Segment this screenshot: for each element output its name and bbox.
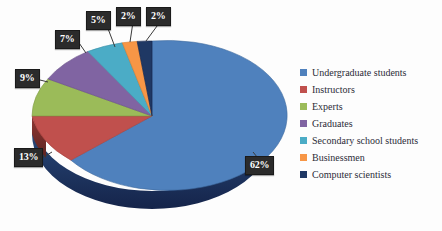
legend-label: Undergraduate students	[312, 68, 407, 78]
data-label-businessmen: 2%	[116, 7, 141, 26]
legend-swatch-icon	[300, 103, 307, 110]
legend-swatch-icon	[300, 86, 307, 93]
data-label-experts: 9%	[15, 69, 40, 88]
legend-label: Businessmen	[312, 153, 365, 163]
legend-label: Computer scientists	[312, 170, 391, 180]
legend-swatch-icon	[300, 154, 307, 161]
legend-swatch-icon	[300, 120, 307, 127]
legend-swatch-icon	[300, 171, 307, 178]
legend-item-secondary-school-students[interactable]: Secondary school students	[300, 132, 442, 149]
legend-label: Instructors	[312, 85, 355, 95]
chart-plot-area: 62% 13% 9% 7% 5% 2% 2%	[0, 0, 300, 231]
legend-label: Graduates	[312, 119, 353, 129]
legend-item-instructors[interactable]: Instructors	[300, 81, 442, 98]
legend-swatch-icon	[300, 69, 307, 76]
pie-chart-figure: 62% 13% 9% 7% 5% 2% 2% Undergraduate stu…	[0, 0, 442, 231]
data-label-secondary-school-students: 5%	[86, 11, 111, 30]
legend-item-computer-scientists[interactable]: Computer scientists	[300, 166, 442, 183]
data-label-undergraduate-students: 62%	[245, 156, 274, 175]
legend-item-undergraduate-students[interactable]: Undergraduate students	[300, 64, 442, 81]
data-label-graduates: 7%	[55, 30, 80, 49]
legend-item-graduates[interactable]: Graduates	[300, 115, 442, 132]
legend-item-businessmen[interactable]: Businessmen	[300, 149, 442, 166]
data-label-instructors: 13%	[14, 148, 43, 167]
data-label-computer-scientists: 2%	[146, 7, 171, 26]
legend-item-experts[interactable]: Experts	[300, 98, 442, 115]
legend-label: Secondary school students	[312, 136, 418, 146]
legend-label: Experts	[312, 102, 343, 112]
legend-swatch-icon	[300, 137, 307, 144]
pie-chart-graphic	[0, 0, 300, 231]
chart-legend: Undergraduate students Instructors Exper…	[300, 64, 442, 183]
